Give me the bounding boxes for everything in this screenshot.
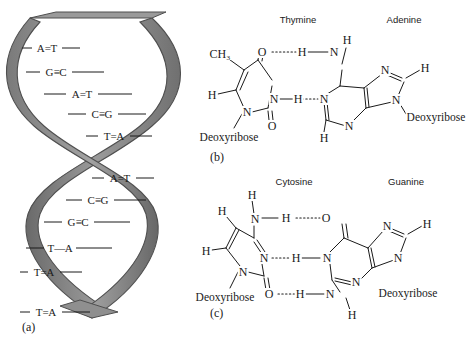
atom-adenine-n9: N	[391, 94, 402, 106]
base-pair-9: T—A	[47, 242, 72, 254]
panel-b-thymine-adenine: Thymine Adenine	[196, 8, 472, 168]
atom-cytosine-h5: H	[217, 205, 228, 217]
atom-thymine-o2: O	[267, 120, 278, 132]
atom-thymine-n3: N	[269, 93, 280, 105]
atom-cytosine-n3: N	[259, 252, 270, 264]
atom-thymine-h6: H	[207, 89, 218, 101]
base-pair-7: C≡G	[87, 194, 108, 206]
atom-adenine-n3: N	[344, 120, 355, 132]
atom-thymine-n1: N	[242, 106, 253, 118]
atom-guanine-h8: H	[422, 218, 433, 230]
label-deoxyribose-thymine: Deoxyribose	[199, 132, 260, 144]
atom-guanine-n9: N	[393, 252, 404, 264]
base-pair-8: G≡C	[67, 216, 88, 228]
atom-adenine-n1: N	[319, 93, 330, 105]
atom-cytosine-h-amine: H	[247, 189, 258, 201]
atom-adenine-n6: N	[329, 46, 340, 58]
atom-cytosine-n4: N	[250, 213, 261, 225]
base-pair-5: T=A	[104, 130, 124, 142]
base-pair-4: C≡G	[91, 108, 112, 120]
atom-guanine-n3: N	[351, 276, 362, 288]
base-pair-2: G≡C	[45, 66, 66, 78]
dna-helix-illustration	[0, 0, 200, 347]
atom-guanine-n1: N	[322, 252, 333, 264]
panel-label-a: (a)	[22, 320, 35, 335]
base-pair-11: T=A	[36, 306, 56, 318]
panel-label-c: (c)	[210, 306, 223, 321]
thymine-adenine-bonds	[196, 8, 472, 168]
label-deoxyribose-adenine: Deoxyribose	[406, 112, 467, 124]
helix-top-tip	[30, 12, 166, 18]
atom-adenine-h8: H	[420, 62, 431, 74]
atom-guanine-h-amine: H	[347, 309, 358, 321]
atom-cytosine-o2: O	[264, 288, 275, 300]
atom-guanine-n7: N	[382, 220, 393, 232]
panel-c-cytosine-guanine: Cytosine Guanine	[196, 172, 472, 344]
atom-thymine-o4: O	[257, 46, 268, 58]
atom-hbond-h-c1: H	[281, 212, 292, 224]
atom-hbond-h-2: H	[293, 93, 304, 105]
atom-hbond-h-1: H	[297, 46, 308, 58]
atom-guanine-o6: O	[321, 212, 332, 224]
atom-hbond-h-c2: H	[291, 252, 302, 264]
base-pair-1: A=T	[37, 42, 57, 54]
atom-adenine-n7: N	[380, 64, 391, 76]
panel-a-dna-helix: A=T G≡C A=T C≡G T=A A=T C≡G G≡C T—A T=A	[0, 0, 200, 347]
atom-hbond-h-c3: H	[295, 288, 306, 300]
label-deoxyribose-guanine: Deoxyribose	[378, 288, 439, 300]
atom-adenine-h2: H	[319, 132, 330, 144]
atom-cytosine-h6: H	[201, 245, 212, 257]
base-pair-10: T=A	[34, 266, 54, 278]
atom-adenine-h-amine: H	[342, 34, 353, 46]
base-pair-6: A=T	[110, 172, 130, 184]
dna-structure-figure: A=T G≡C A=T C≡G T=A A=T C≡G G≡C T—A T=A	[0, 0, 472, 347]
base-pair-3: A=T	[72, 88, 92, 100]
atom-guanine-n2: N	[325, 288, 336, 300]
atom-cytosine-n1: N	[238, 266, 249, 278]
atom-methyl: CH₃	[209, 48, 232, 60]
panel-label-b: (b)	[210, 150, 224, 165]
cytosine-guanine-bonds	[196, 172, 472, 344]
label-deoxyribose-cytosine: Deoxyribose	[195, 292, 256, 304]
